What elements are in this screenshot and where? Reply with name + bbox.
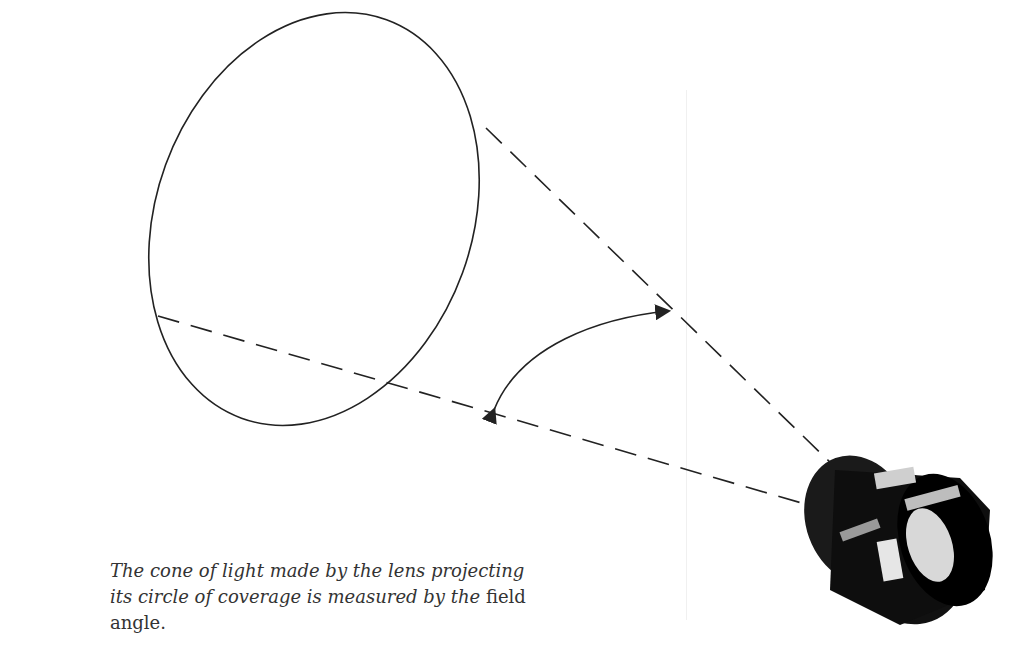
caption-italic: The cone of light made by the lens proje…	[110, 560, 524, 607]
lens-icon	[787, 440, 1009, 642]
cone-upper-line	[486, 128, 838, 470]
cone-lower-line	[158, 316, 812, 506]
figure-caption: The cone of light made by the lens proje…	[110, 558, 550, 636]
field-angle-arrow	[494, 311, 668, 410]
circle-of-coverage	[93, 0, 535, 472]
figure-page: The cone of light made by the lens proje…	[0, 0, 1014, 659]
